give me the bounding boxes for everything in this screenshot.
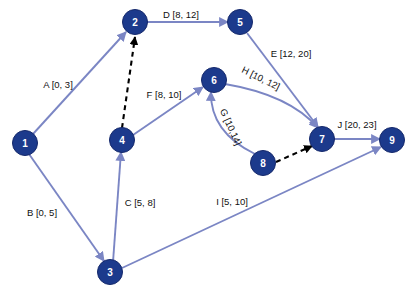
node-1[interactable]: 1 [13,131,38,156]
node-3[interactable]: 3 [98,260,123,285]
node-5[interactable]: 5 [228,10,253,35]
edge-label-E: E [12, 20] [271,48,312,59]
node-3-label: 3 [107,267,113,278]
node-8-label: 8 [260,158,266,169]
edge-label-B: B [0, 5] [27,207,57,218]
nodes-layer: 1 2 3 4 5 6 7 [13,10,405,285]
node-5-label: 5 [237,17,243,28]
node-9[interactable]: 9 [380,128,405,153]
node-7[interactable]: 7 [310,127,335,152]
edge-C [113,152,121,262]
network-diagram: 1 2 3 4 5 6 7 [0,0,418,293]
node-7-label: 7 [319,134,325,145]
node-2-label: 2 [132,17,138,28]
network-graph-canvas: 1 2 3 4 5 6 7 [0,0,418,293]
node-1-label: 1 [22,138,28,149]
edge-label-I: I [5, 10] [216,196,248,207]
edge-label-A: A [0, 3] [43,79,73,90]
node-6[interactable]: 6 [202,68,227,93]
node-4-label: 4 [119,135,125,146]
edge-label-J: J [20, 23] [337,119,376,130]
node-9-label: 9 [389,135,395,146]
node-8[interactable]: 8 [251,151,276,176]
edge-label-F: F [8, 10] [147,89,182,100]
edge-H [225,84,318,128]
edge-labels-layer: A [0, 3] B [0, 5] C [5, 8] D [8, 12] E [… [27,9,377,218]
edge-label-D: D [8, 12] [163,9,199,20]
edge-label-C: C [5, 8] [125,197,156,208]
node-6-label: 6 [211,75,217,86]
edge-dummy-8-7 [276,146,312,162]
node-2[interactable]: 2 [123,10,148,35]
node-4[interactable]: 4 [110,128,135,153]
edge-dummy-4-2 [122,37,135,128]
